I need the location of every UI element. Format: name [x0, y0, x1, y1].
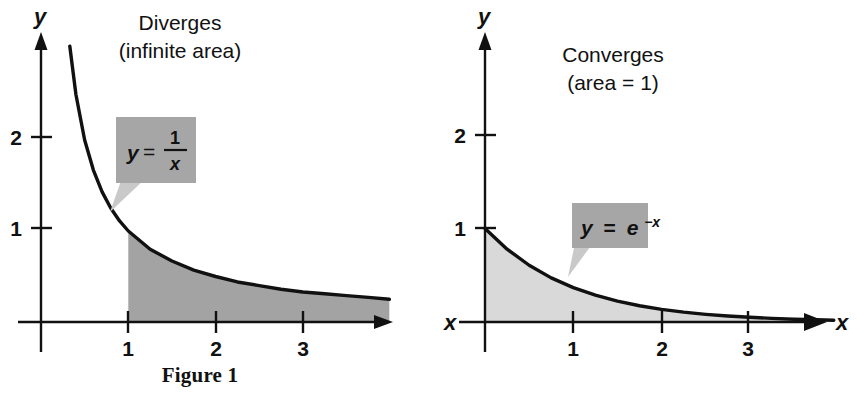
- shaded-region-figure-1: [128, 231, 389, 322]
- annotation-line-2-figure-2: (area = 1): [567, 71, 659, 94]
- annotation-line-1-figure-1: Diverges: [139, 11, 222, 34]
- y-tick-label-2-figure-1: 2: [10, 126, 22, 149]
- x-axis-label-figure-2: x: [835, 310, 849, 335]
- figure-panel-1: 2 1 1 2 3 y Diverges (infinite area) y =…: [0, 0, 430, 401]
- figures-board: 2 1 1 2 3 y Diverges (infinite area) y =…: [0, 0, 857, 401]
- x-tick-label-3-figure-2: 3: [742, 337, 754, 360]
- y-tick-label-1-figure-1: 1: [10, 217, 22, 240]
- x-tick-label-2-figure-2: 2: [656, 337, 668, 360]
- x-axis-arrow-figure-2: [804, 313, 827, 331]
- callout-lhs-figure-1: y: [126, 141, 140, 164]
- callout-numerator-figure-1: 1: [170, 128, 180, 148]
- caption-figure-1: Figure 1: [120, 363, 280, 388]
- figure-1-plot: 2 1 1 2 3 y Diverges (infinite area) y =…: [0, 0, 430, 401]
- y-axis-label-figure-1: y: [33, 4, 48, 29]
- y-axis-arrow-figure-1: [35, 32, 48, 50]
- annotation-line-1-figure-2: Converges: [562, 43, 664, 66]
- y-axis-label-figure-2: y: [477, 4, 492, 29]
- figure-2-plot: 2 1 1 2 3 y x x Converges (area = 1) y =…: [430, 0, 857, 401]
- x-tick-label-2-figure-1: 2: [210, 337, 222, 360]
- figure-panel-2: 2 1 1 2 3 y x x Converges (area = 1) y =…: [430, 0, 857, 401]
- callout-equation-figure-2: y = e −x: [580, 214, 661, 239]
- x-axis-label-left-figure-2: x: [443, 310, 457, 335]
- callout-figure-2: y = e −x: [568, 203, 661, 277]
- y-tick-label-1-figure-2: 1: [454, 217, 466, 240]
- y-axis-arrow-figure-2: [479, 32, 492, 50]
- callout-tail-figure-1: [110, 178, 146, 212]
- x-tick-label-3-figure-1: 3: [297, 337, 309, 360]
- y-tick-label-2-figure-2: 2: [454, 124, 466, 147]
- callout-figure-1: y = 1 x: [110, 117, 196, 212]
- x-tick-label-1-figure-1: 1: [122, 337, 134, 360]
- annotation-line-2-figure-1: (infinite area): [119, 39, 242, 62]
- callout-tail-figure-2: [568, 243, 593, 277]
- callout-denominator-figure-1: x: [169, 154, 181, 174]
- x-tick-label-1-figure-2: 1: [567, 337, 579, 360]
- callout-equals-figure-1: =: [143, 140, 155, 163]
